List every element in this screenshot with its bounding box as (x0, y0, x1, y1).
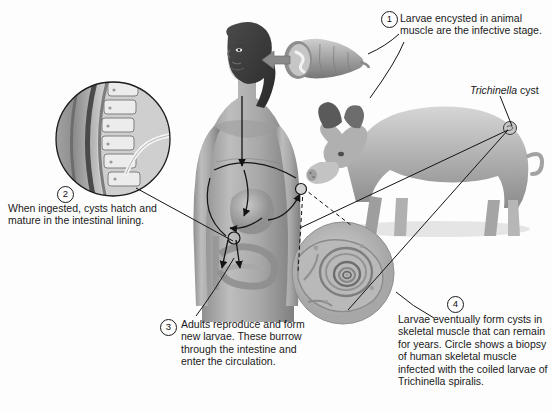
step-number-1: 1 (381, 11, 398, 28)
step-caption-4: Larvae eventually form cysts in skeletal… (398, 313, 550, 387)
step-number-3: 3 (160, 319, 177, 336)
figure-canvas: 1 Larvae encysted in animal muscle are t… (0, 0, 552, 412)
trichinella-genus-text: Trichinella (470, 84, 517, 96)
step-number-2: 2 (57, 186, 74, 203)
step-caption-1: Larvae encysted in animal muscle are the… (400, 12, 545, 37)
cyst-word-text: cyst (517, 84, 539, 96)
step-caption-2: When ingested, cysts hatch and mature in… (8, 202, 168, 227)
step-caption-3: Adults reproduce and form new larvae. Th… (181, 318, 321, 368)
step-number-4: 4 (447, 296, 464, 313)
trichinella-cyst-label: Trichinella cyst (470, 84, 539, 96)
